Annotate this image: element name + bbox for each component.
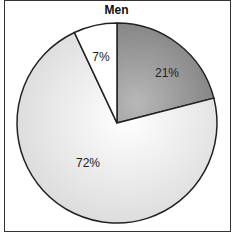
slice-label-72: 72%	[76, 156, 100, 170]
slice-label-21: 21%	[155, 66, 179, 80]
slice-label-7: 7%	[92, 50, 110, 64]
pie-chart: 21% 72% 7%	[0, 0, 233, 239]
pie-slices	[17, 23, 217, 223]
